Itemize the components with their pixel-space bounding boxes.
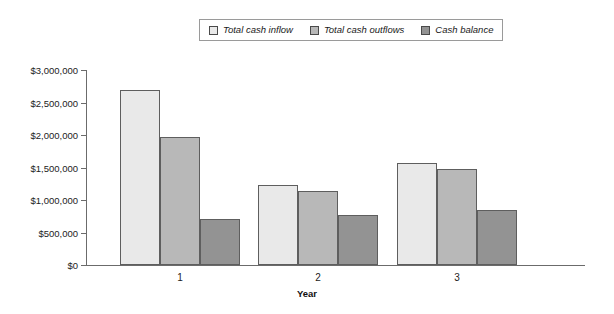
legend-item-cash-balance: Cash balance bbox=[421, 25, 493, 35]
y-axis-tick-label: $0 bbox=[67, 260, 78, 271]
y-axis-tick-label: $1,000,000 bbox=[30, 195, 78, 206]
legend-item-total-cash-outflows: Total cash outflows bbox=[310, 25, 404, 35]
bar bbox=[200, 219, 240, 265]
bar bbox=[120, 90, 160, 266]
y-axis-line bbox=[86, 70, 87, 266]
y-axis-tick-mark bbox=[81, 200, 86, 201]
legend-label: Cash balance bbox=[435, 25, 493, 35]
legend-swatch-icon bbox=[421, 26, 430, 35]
bar bbox=[258, 185, 298, 265]
bar bbox=[477, 210, 517, 265]
legend-label: Total cash outflows bbox=[324, 25, 404, 35]
bar-chart: Total cash inflow Total cash outflows Ca… bbox=[0, 0, 614, 314]
x-axis-line bbox=[86, 265, 585, 266]
legend-swatch-icon bbox=[209, 26, 218, 35]
y-axis-tick-label: $3,000,000 bbox=[30, 65, 78, 76]
y-axis-tick-mark bbox=[81, 233, 86, 234]
bar bbox=[298, 191, 338, 265]
bar bbox=[437, 169, 477, 265]
x-axis-title: Year bbox=[0, 288, 614, 299]
y-axis-tick-label: $500,000 bbox=[38, 227, 78, 238]
bar bbox=[338, 215, 378, 265]
legend-swatch-icon bbox=[310, 26, 319, 35]
y-axis-tick-mark bbox=[81, 70, 86, 71]
bar-group bbox=[258, 70, 378, 265]
y-axis-tick-label: $1,500,000 bbox=[30, 162, 78, 173]
y-axis-tick-label: $2,500,000 bbox=[30, 97, 78, 108]
plot-area: $0$500,000$1,000,000$1,500,000$2,000,000… bbox=[86, 70, 585, 265]
x-axis-category-label: 3 bbox=[454, 272, 460, 283]
y-axis-tick-mark bbox=[81, 103, 86, 104]
y-axis-tick-label: $2,000,000 bbox=[30, 130, 78, 141]
x-axis-category-label: 1 bbox=[177, 272, 183, 283]
y-axis-tick-mark bbox=[81, 265, 86, 266]
legend-label: Total cash inflow bbox=[223, 25, 293, 35]
chart-legend: Total cash inflow Total cash outflows Ca… bbox=[199, 19, 503, 41]
bar-group bbox=[397, 70, 517, 265]
y-axis-tick-mark bbox=[81, 135, 86, 136]
legend-item-total-cash-inflow: Total cash inflow bbox=[209, 25, 293, 35]
x-axis-category-label: 2 bbox=[315, 272, 321, 283]
bar bbox=[160, 137, 200, 265]
y-axis-tick-mark bbox=[81, 168, 86, 169]
bar bbox=[397, 163, 437, 265]
bar-group bbox=[120, 70, 240, 265]
